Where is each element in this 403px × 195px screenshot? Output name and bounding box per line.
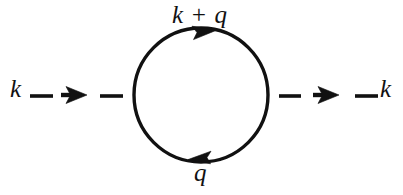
upper-loop-momentum-label: k + q [172,2,227,27]
left-arrow-icon [61,87,87,104]
incoming-momentum-label: k [10,76,21,101]
loop-circle-group [134,26,268,164]
feynman-diagram-canvas: k k + q q k [0,0,403,195]
left-external-line-group [30,87,123,104]
loop-circle [134,28,268,162]
lower-loop-momentum-label: q [194,160,207,185]
right-external-line-group [279,87,378,104]
outgoing-momentum-label: k [380,76,391,101]
right-arrow-icon [313,87,339,104]
